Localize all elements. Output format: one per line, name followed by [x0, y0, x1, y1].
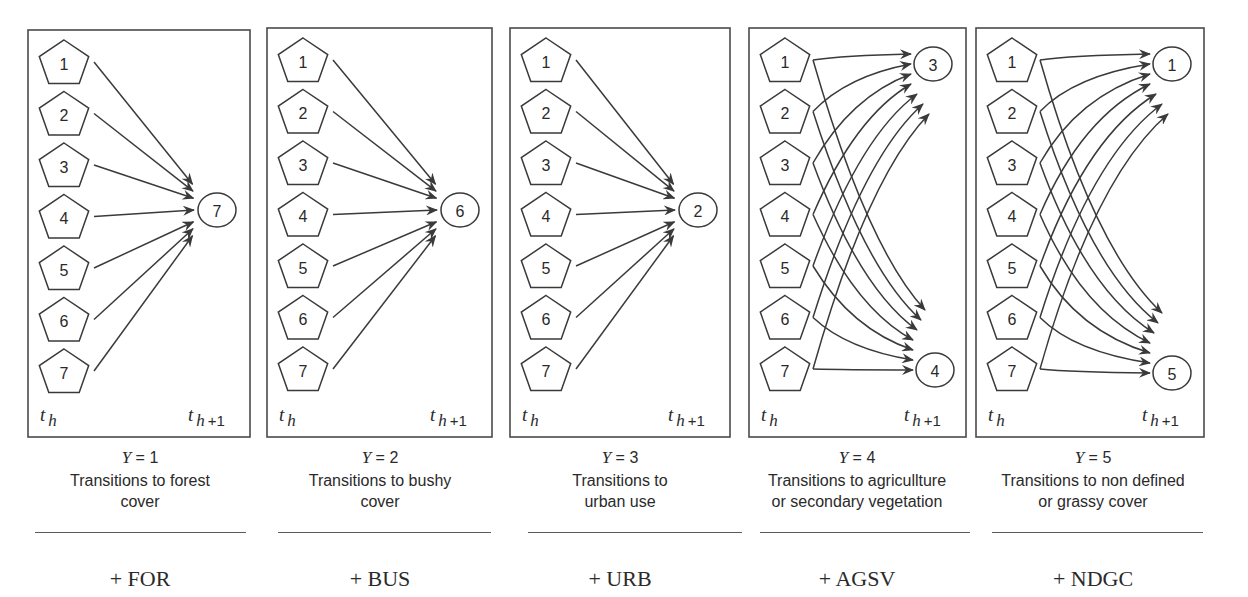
y-value: 1 [149, 449, 158, 466]
panel-caption-ndgc: Y = 5Transitions to non definedor grassy… [963, 448, 1223, 512]
panel-caption-urb: Y = 3Transitions tourban use [490, 448, 750, 512]
source-node-label: 6 [60, 313, 69, 330]
panel-bus: 12345676thth+1 [267, 28, 492, 437]
source-node-label: 5 [299, 260, 308, 277]
y-value: 5 [1102, 449, 1111, 466]
source-node-label: 2 [60, 107, 69, 124]
target-node-label: 2 [694, 203, 703, 220]
panel-for: 12345677thth+1 [28, 30, 250, 437]
panel-caption-for: Y = 1Transitions to forestcover [10, 448, 270, 512]
panel-urb: 12345672thth+1 [510, 28, 730, 437]
source-node-label: 6 [781, 311, 790, 328]
transition-description-line: Transitions to forest [10, 470, 270, 491]
equals-sign: = [131, 449, 149, 466]
source-node-label: 1 [542, 54, 551, 71]
target-node-3: 3 [914, 47, 952, 81]
target-node-7: 7 [198, 193, 236, 227]
source-node-label: 3 [1008, 157, 1017, 174]
source-node-label: 4 [542, 208, 551, 225]
source-node-label: 3 [542, 157, 551, 174]
source-node-label: 4 [60, 210, 69, 227]
y-value: 4 [866, 449, 875, 466]
equals-sign: = [611, 449, 629, 466]
source-node-label: 1 [781, 54, 790, 71]
variable-code-label: + URB [520, 566, 720, 592]
target-node-4: 4 [916, 353, 954, 387]
target-node-label: 5 [1168, 366, 1177, 383]
source-node-label: 2 [542, 105, 551, 122]
transition-description-line: Transitions to agricullture [727, 470, 987, 491]
target-nodes: 2 [679, 193, 717, 227]
variable-code-label: + AGSV [757, 566, 957, 592]
y-equation: Y = 1 [10, 448, 270, 468]
equals-sign: = [848, 449, 866, 466]
panel-agsv: 123456734thth+1 [749, 28, 966, 437]
source-node-label: 2 [299, 105, 308, 122]
transition-description-line: Transitions to non defined [963, 470, 1223, 491]
y-variable: Y [362, 448, 371, 467]
transition-description-line: Transitions to [490, 470, 750, 491]
target-nodes: 6 [441, 193, 479, 227]
source-node-label: 3 [781, 157, 790, 174]
source-node-label: 7 [542, 363, 551, 380]
source-node-label: 7 [781, 363, 790, 380]
source-node-label: 5 [542, 260, 551, 277]
caption-divider [528, 532, 742, 533]
source-node-label: 4 [781, 208, 790, 225]
variable-code-label: + NDGC [993, 566, 1193, 592]
source-node-label: 5 [1008, 260, 1017, 277]
y-value: 3 [629, 449, 638, 466]
source-node-label: 3 [299, 157, 308, 174]
caption-divider [992, 532, 1203, 533]
target-node-label: 7 [213, 203, 222, 220]
caption-divider [760, 532, 970, 533]
source-node-label: 6 [299, 311, 308, 328]
source-node-label: 1 [1008, 54, 1017, 71]
y-equation: Y = 5 [963, 448, 1223, 468]
source-node-label: 2 [781, 105, 790, 122]
y-equation: Y = 3 [490, 448, 750, 468]
y-variable: Y [122, 448, 131, 467]
y-value: 2 [389, 449, 398, 466]
source-node-label: 2 [1008, 105, 1017, 122]
y-variable: Y [602, 448, 611, 467]
target-node-2: 2 [679, 193, 717, 227]
panel-ndgc: 123456715thth+1 [976, 28, 1204, 437]
source-node-label: 1 [60, 56, 69, 73]
variable-code-label: + BUS [280, 566, 480, 592]
transition-description-line: urban use [490, 491, 750, 512]
target-node-1: 1 [1153, 47, 1191, 81]
transition-description-line: cover [10, 491, 270, 512]
transition-description-line: Transitions to bushy [250, 470, 510, 491]
source-node-label: 7 [60, 365, 69, 382]
source-node-label: 4 [299, 208, 308, 225]
y-equation: Y = 4 [727, 448, 987, 468]
panels-layer: 12345677thth+112345676thth+112345672thth… [28, 28, 1204, 437]
target-node-label: 3 [929, 57, 938, 74]
source-node-label: 6 [1008, 311, 1017, 328]
source-node-label: 7 [299, 363, 308, 380]
source-node-label: 1 [299, 54, 308, 71]
transition-description-line: cover [250, 491, 510, 512]
target-node-6: 6 [441, 193, 479, 227]
equals-sign: = [1084, 449, 1102, 466]
panel-caption-agsv: Y = 4Transitions to agriculltureor secon… [727, 448, 987, 512]
transition-description-line: or secondary vegetation [727, 491, 987, 512]
source-node-label: 5 [781, 260, 790, 277]
target-node-label: 1 [1168, 57, 1177, 74]
variable-code-label: + FOR [40, 566, 240, 592]
target-node-label: 4 [931, 363, 940, 380]
source-node-label: 7 [1008, 363, 1017, 380]
transition-description-line: or grassy cover [963, 491, 1223, 512]
y-variable: Y [1075, 448, 1084, 467]
target-nodes: 7 [198, 193, 236, 227]
caption-divider [278, 532, 491, 533]
equals-sign: = [371, 449, 389, 466]
source-node-label: 3 [60, 159, 69, 176]
source-node-label: 5 [60, 262, 69, 279]
y-variable: Y [839, 448, 848, 467]
source-node-label: 6 [542, 311, 551, 328]
panel-caption-bus: Y = 2Transitions to bushycover [250, 448, 510, 512]
source-node-label: 4 [1008, 208, 1017, 225]
target-node-label: 6 [456, 203, 465, 220]
